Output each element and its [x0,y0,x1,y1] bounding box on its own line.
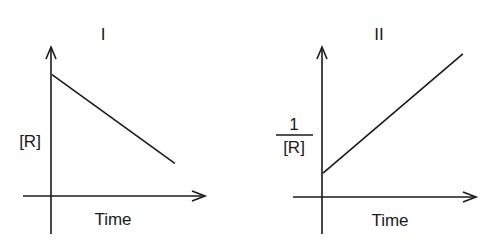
chart-2-y-label-numerator: 1 [289,115,298,134]
chart-2-series-line [323,54,463,173]
chart-2-x-label: Time [371,211,408,230]
chart-2-title: II [374,25,383,44]
chart-2-y-label-denominator: [R] [283,138,305,157]
chart-1-x-label: Time [94,210,131,229]
chart-1-series-line [52,75,175,164]
chart-2: II 1 [R] Time [276,25,476,234]
chart-1: I [R] Time [19,25,205,234]
chart-1-title: I [101,25,106,44]
chart-1-y-label: [R] [19,132,41,151]
figure: I [R] Time II 1 [R] Time [0,0,490,249]
